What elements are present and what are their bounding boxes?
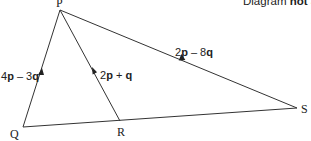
vertex-Q: Q — [10, 127, 19, 141]
line-PS — [60, 10, 297, 108]
vertex-R: R — [117, 125, 125, 139]
vertex-P: P — [56, 0, 63, 10]
line-QS — [23, 108, 297, 127]
vector-label-QP: 4p – 3q — [1, 70, 39, 82]
vector-label-RP: 2p + q — [100, 69, 132, 81]
line-PR — [60, 10, 120, 121]
vector-label-PS: 2p – 8q — [175, 46, 213, 58]
vector-diagram: P Q R S 4p – 3q 2p + q 2p – 8q — [0, 0, 311, 141]
line-PQ — [23, 10, 60, 127]
vertex-S: S — [301, 102, 308, 116]
